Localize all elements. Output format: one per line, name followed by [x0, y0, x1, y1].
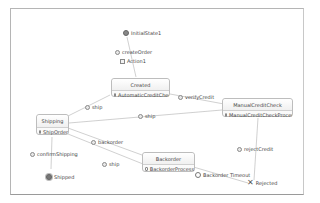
trigger-icon: [85, 105, 90, 110]
transition-createorder[interactable]: createOrder: [115, 49, 152, 55]
initial-state[interactable]: InitialState1: [123, 30, 161, 36]
final-state-label: Rejected: [256, 180, 278, 186]
transition-label: ship: [109, 161, 119, 167]
trigger-icon: [91, 140, 96, 145]
final-state-icon: [46, 174, 52, 180]
transition-label: verifyCredit: [185, 94, 214, 100]
transition-label: Backorder Timeout: [203, 172, 250, 178]
trigger-icon: [30, 152, 35, 157]
state-activity: ManualCreditCheckProcess: [223, 111, 292, 119]
transition-label: ship: [92, 104, 102, 110]
trigger-icon: [178, 95, 183, 100]
trigger-icon: [237, 147, 242, 152]
state-title: Created: [112, 79, 169, 91]
subprocess-icon: [114, 93, 116, 97]
final-state-rejected[interactable]: ✕ Rejected: [247, 180, 277, 186]
initial-state-icon: [123, 30, 129, 36]
state-backorder[interactable]: Backorder BackorderProcess: [142, 152, 195, 172]
transition-confirmshipping[interactable]: confirmShipping: [30, 151, 78, 157]
initial-state-label: InitialState1: [131, 30, 161, 36]
trigger-icon: [102, 162, 107, 167]
transition-label: confirmShipping: [37, 151, 78, 157]
state-shipping[interactable]: Shipping ShipOrder: [36, 114, 69, 135]
subprocess-icon: [145, 167, 148, 171]
state-title: ManualCreditCheck: [223, 99, 292, 111]
state-title: Shipping: [37, 115, 68, 128]
trigger-icon: [138, 114, 143, 119]
activity-label: AutomaticCreditCheck: [118, 92, 169, 98]
state-title: Backorder: [143, 153, 194, 165]
subprocess-icon: [225, 113, 227, 117]
action-icon: [120, 59, 125, 64]
final-state-label: Shipped: [54, 174, 74, 180]
transition-ship-from-created[interactable]: ship: [85, 104, 102, 110]
subprocess-icon: [39, 130, 41, 134]
transition-verifycredit[interactable]: verifyCredit: [178, 94, 214, 100]
final-state-shipped[interactable]: Shipped: [46, 174, 74, 180]
timer-icon: [195, 172, 201, 178]
transition-label: createOrder: [122, 49, 152, 55]
transition-ship-from-backorder[interactable]: ship: [102, 161, 119, 167]
state-activity: BackorderProcess: [143, 165, 194, 173]
transition-action[interactable]: Action1: [120, 58, 146, 64]
transition-backorder[interactable]: backorder: [91, 139, 123, 145]
transition-label: ship: [145, 113, 155, 119]
state-manualcreditcheck[interactable]: ManualCreditCheck ManualCreditCheckProce…: [222, 98, 293, 117]
action-label: Action1: [127, 58, 146, 64]
state-created[interactable]: Created AutomaticCreditCheck: [111, 78, 170, 97]
transition-label: backorder: [98, 139, 123, 145]
activity-label: ManualCreditCheckProcess: [229, 112, 292, 118]
activity-label: ShipOrder: [43, 129, 68, 135]
trigger-icon: [115, 50, 120, 55]
state-activity: AutomaticCreditCheck: [112, 91, 169, 99]
activity-label: BackorderProcess: [150, 166, 194, 172]
state-activity: ShipOrder: [37, 128, 68, 136]
transition-backorder-timeout[interactable]: Backorder Timeout: [195, 172, 250, 178]
transition-label: rejectCredit: [244, 146, 273, 152]
transition-ship-from-manual[interactable]: ship: [138, 113, 155, 119]
terminate-icon: ✕: [247, 180, 254, 186]
transition-rejectcredit[interactable]: rejectCredit: [237, 146, 273, 152]
